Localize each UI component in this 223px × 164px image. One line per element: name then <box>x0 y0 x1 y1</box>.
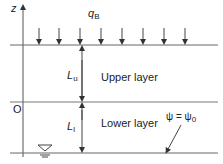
load-label: qB <box>88 8 99 21</box>
upper-layer-label: Upper layer <box>101 72 158 83</box>
upper-dimension-label: Lu <box>67 70 78 83</box>
origin-label: O <box>13 104 22 115</box>
water-table-icon <box>38 145 52 157</box>
lower-dimension-label: Ll <box>67 121 75 134</box>
boundary-condition-label: ψ = ψ0 <box>166 112 196 124</box>
lower-layer-label: Lower layer <box>101 118 158 129</box>
load-arrows <box>39 28 185 42</box>
boundary-leader-arrow <box>167 125 181 151</box>
z-axis-label: z <box>11 3 17 14</box>
